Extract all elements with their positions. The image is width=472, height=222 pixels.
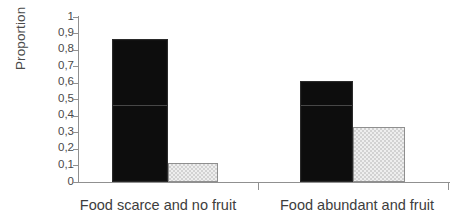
bar-interior-line [301,105,352,106]
x-axis-label-food-scarce: Food scarce and no fruit [58,196,258,214]
bar-dark-food-abundant [300,81,353,182]
bar-light-food-scarce [168,163,218,182]
y-tick-label-01: 0,1 [40,159,74,171]
y-axis-tick-labels: 1 0,9 0,8 0,7 0,6 0,5 0,4 0,3 0,2 0,1 0 [40,0,74,222]
category-separator-tick [448,182,449,190]
y-tick-label-07: 0,7 [40,60,74,72]
bar-chart: Proportion 1 0,9 0,8 0,7 0,6 0,5 0,4 0,3… [0,0,472,222]
bar-interior-line [113,105,167,106]
y-tick-label-1: 1 [40,11,74,23]
y-tick-label-08: 0,8 [40,43,74,55]
x-axis-label-food-abundant: Food abundant and fruit [262,196,452,214]
y-tick-label-05: 0,5 [40,93,74,105]
y-tick-label-02: 0,2 [40,142,74,154]
plot-area [78,17,448,182]
y-axis-title: Proportion [13,0,31,70]
y-tick-label-0: 0 [40,176,74,188]
category-separator-tick [258,182,259,190]
bar-light-food-abundant [353,127,405,182]
y-tick-label-06: 0,6 [40,76,74,88]
y-tick-label-03: 0,3 [40,126,74,138]
bar-dark-food-scarce [112,39,168,182]
y-tickmark-0 [73,182,78,183]
x-axis-line [78,182,450,183]
y-tick-label-09: 0,9 [40,27,74,39]
y-tick-label-04: 0,4 [40,109,74,121]
